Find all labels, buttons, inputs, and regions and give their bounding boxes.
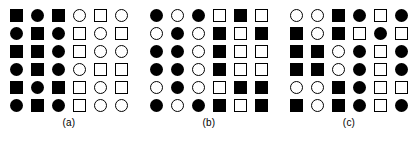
filled-circle-icon xyxy=(353,9,366,22)
open-square-icon xyxy=(374,63,387,76)
open-circle-icon xyxy=(311,81,324,94)
filled-square-icon xyxy=(290,63,303,76)
grid-cell xyxy=(307,96,328,114)
filled-circle-icon xyxy=(353,63,366,76)
grid-cell xyxy=(6,6,27,24)
grid-cell xyxy=(146,24,167,42)
filled-square-icon xyxy=(332,99,345,112)
grid-cell xyxy=(188,6,209,24)
grid-cell xyxy=(391,78,412,96)
open-square-icon xyxy=(73,99,86,112)
open-circle-icon xyxy=(192,45,205,58)
grid-cell xyxy=(349,96,370,114)
filled-circle-icon xyxy=(150,45,163,58)
open-circle-icon xyxy=(171,99,184,112)
open-square-icon xyxy=(234,63,247,76)
filled-square-icon xyxy=(234,81,247,94)
grid-cell xyxy=(370,24,391,42)
grid-cell xyxy=(188,78,209,96)
shape-grid-figure: (a) (b) (c) xyxy=(0,0,416,147)
grid-cell xyxy=(167,60,188,78)
grid-cell xyxy=(48,42,69,60)
grid-cell xyxy=(188,24,209,42)
filled-square-icon xyxy=(31,99,44,112)
grid-cell xyxy=(69,6,90,24)
open-square-icon xyxy=(234,45,247,58)
open-circle-icon xyxy=(94,45,107,58)
filled-circle-icon xyxy=(52,45,65,58)
filled-square-icon xyxy=(10,9,23,22)
open-circle-icon xyxy=(332,63,345,76)
grid-cell xyxy=(307,24,328,42)
grid-cell xyxy=(391,24,412,42)
filled-circle-icon xyxy=(150,63,163,76)
open-square-icon xyxy=(73,45,86,58)
grid-cell xyxy=(349,60,370,78)
grid-cell xyxy=(230,78,251,96)
open-circle-icon xyxy=(94,27,107,40)
grid-cell xyxy=(251,24,272,42)
filled-square-icon xyxy=(10,81,23,94)
grid-cell xyxy=(349,78,370,96)
open-circle-icon xyxy=(332,45,345,58)
filled-square-icon xyxy=(31,27,44,40)
open-square-icon xyxy=(255,9,268,22)
filled-circle-icon xyxy=(353,99,366,112)
grid-cell xyxy=(69,24,90,42)
grid-cell xyxy=(251,60,272,78)
grid-cell xyxy=(48,24,69,42)
open-square-icon xyxy=(94,63,107,76)
grid-cell xyxy=(328,42,349,60)
open-square-icon xyxy=(115,81,128,94)
filled-circle-icon xyxy=(52,63,65,76)
panel-caption-b: (b) xyxy=(203,117,216,129)
grid-cell xyxy=(6,24,27,42)
grid-cell xyxy=(90,60,111,78)
grid-cell xyxy=(370,60,391,78)
panel-b: (b) xyxy=(146,6,272,129)
open-square-icon xyxy=(255,63,268,76)
grid-cell xyxy=(69,42,90,60)
filled-circle-icon xyxy=(52,27,65,40)
open-circle-icon xyxy=(115,45,128,58)
filled-square-icon xyxy=(332,81,345,94)
filled-square-icon xyxy=(234,9,247,22)
open-circle-icon xyxy=(311,9,324,22)
panel-a: (a) xyxy=(6,6,132,129)
grid-cell xyxy=(111,78,132,96)
grid-cell xyxy=(307,78,328,96)
filled-circle-icon xyxy=(374,27,387,40)
grid-cell xyxy=(307,42,328,60)
grid-cell xyxy=(209,96,230,114)
open-circle-icon xyxy=(150,81,163,94)
grid-cell xyxy=(146,42,167,60)
filled-circle-icon xyxy=(395,9,408,22)
grid-cell xyxy=(328,78,349,96)
open-circle-icon xyxy=(115,9,128,22)
open-circle-icon xyxy=(94,99,107,112)
grid-cell xyxy=(48,60,69,78)
grid-cell xyxy=(328,96,349,114)
open-circle-icon xyxy=(311,27,324,40)
grid-cell xyxy=(167,78,188,96)
grid-cell xyxy=(27,6,48,24)
grid-cell xyxy=(230,96,251,114)
filled-circle-icon xyxy=(10,63,23,76)
open-square-icon xyxy=(374,9,387,22)
grid-cell xyxy=(27,60,48,78)
grid-cell xyxy=(370,78,391,96)
open-circle-icon xyxy=(171,9,184,22)
grid-cell xyxy=(286,42,307,60)
grid-cell xyxy=(90,78,111,96)
grid-cell xyxy=(209,78,230,96)
grid-cell xyxy=(48,6,69,24)
open-square-icon xyxy=(255,45,268,58)
filled-square-icon xyxy=(255,99,268,112)
grid-cell xyxy=(90,6,111,24)
grid-cell xyxy=(69,78,90,96)
filled-square-icon xyxy=(255,81,268,94)
grid-cell xyxy=(90,24,111,42)
grid-cell xyxy=(167,6,188,24)
grid-cell xyxy=(209,6,230,24)
grid-cell xyxy=(167,42,188,60)
